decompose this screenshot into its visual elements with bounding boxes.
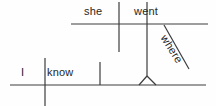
sentence-diagram-canvas: she went I know where [0,0,216,106]
word-label-know: know [47,67,73,78]
word-label-i: I [21,67,24,78]
word-label-she: she [84,6,102,17]
clause-connector-left-leg-line [139,76,147,85]
sentence-diagram-lines [0,0,216,106]
clause-connector-right-leg-line [147,76,156,85]
word-label-went: went [134,6,158,17]
